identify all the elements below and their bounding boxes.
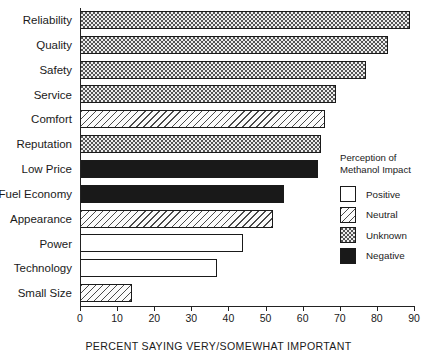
bar-reliability	[80, 11, 410, 29]
value-axis-ticks: 0102030405060708090	[80, 307, 415, 327]
category-label-appearance: Appearance	[10, 207, 72, 232]
tick-mark	[414, 307, 415, 311]
bar-reputation	[80, 135, 321, 153]
bar-row	[80, 8, 414, 33]
bar-chart: ReliabilityQualitySafetyServiceComfortRe…	[0, 0, 437, 364]
tick-label-80: 80	[371, 312, 383, 324]
legend-entry-unknown: Unknown	[340, 225, 437, 246]
tick-mark	[191, 307, 192, 311]
bar-power	[80, 234, 243, 252]
tick-mark	[228, 307, 229, 311]
bar-fuel-economy	[80, 185, 284, 203]
tick-label-50: 50	[260, 312, 272, 324]
bar-service	[80, 85, 336, 103]
category-label-reputation: Reputation	[16, 132, 72, 157]
legend-label-negative: Negative	[366, 250, 405, 261]
bar-quality	[80, 36, 388, 54]
x-axis-title: PERCENT SAYING VERY/SOMEWHAT IMPORTANT	[0, 340, 437, 352]
bar-row	[80, 82, 414, 107]
legend-swatch-neutral	[340, 207, 356, 223]
tick-mark	[117, 307, 118, 311]
category-label-fuel-economy: Fuel Economy	[0, 182, 72, 207]
tick-label-30: 30	[185, 312, 197, 324]
tick-mark	[154, 307, 155, 311]
tick-mark	[266, 307, 267, 311]
legend-label-neutral: Neutral	[366, 209, 398, 220]
tick-label-40: 40	[223, 312, 235, 324]
category-label-small-size: Small Size	[18, 281, 72, 306]
category-label-power: Power	[39, 232, 72, 257]
tick-mark	[340, 307, 341, 311]
tick-mark	[303, 307, 304, 311]
legend-label-positive: Positive	[366, 189, 400, 200]
legend-entry-positive: Positive	[340, 184, 437, 205]
category-label-service: Service	[34, 83, 72, 108]
tick-label-0: 0	[77, 312, 83, 324]
legend-title-line1: Perception of	[340, 152, 437, 164]
category-label-comfort: Comfort	[31, 107, 72, 132]
tick-label-60: 60	[297, 312, 309, 324]
bar-row	[80, 58, 414, 83]
legend-swatch-positive	[340, 186, 356, 202]
category-label-technology: Technology	[14, 256, 72, 281]
bar-technology	[80, 259, 217, 277]
legend-title-line2: Methanol Impact	[340, 164, 437, 176]
legend-swatch-unknown	[340, 227, 356, 243]
tick-mark	[377, 307, 378, 311]
tick-label-10: 10	[111, 312, 123, 324]
category-label-quality: Quality	[36, 33, 72, 58]
bar-appearance	[80, 210, 273, 228]
category-label-safety: Safety	[39, 58, 72, 83]
legend-label-unknown: Unknown	[366, 230, 407, 241]
legend-entry-neutral: Neutral	[340, 205, 437, 226]
tick-label-20: 20	[148, 312, 160, 324]
bar-small-size	[80, 284, 132, 302]
tick-label-90: 90	[408, 312, 420, 324]
legend-entry-negative: Negative	[340, 246, 437, 267]
category-label-low-price: Low Price	[22, 157, 73, 182]
legend-swatch-negative	[340, 248, 356, 264]
legend-entries: PositiveNeutralUnknownNegative	[340, 184, 437, 266]
category-axis-labels: ReliabilityQualitySafetyServiceComfortRe…	[0, 8, 76, 306]
tick-mark	[80, 307, 81, 311]
bar-row	[80, 281, 414, 306]
bar-low-price	[80, 160, 318, 178]
tick-label-70: 70	[334, 312, 346, 324]
legend-title: Perception of Methanol Impact	[340, 152, 437, 175]
bar-row	[80, 33, 414, 58]
category-label-reliability: Reliability	[23, 8, 72, 33]
legend: Perception of Methanol Impact PositiveNe…	[340, 152, 437, 266]
bar-row	[80, 107, 414, 132]
bar-safety	[80, 61, 366, 79]
bar-comfort	[80, 110, 325, 128]
value-axis-line	[80, 8, 81, 307]
